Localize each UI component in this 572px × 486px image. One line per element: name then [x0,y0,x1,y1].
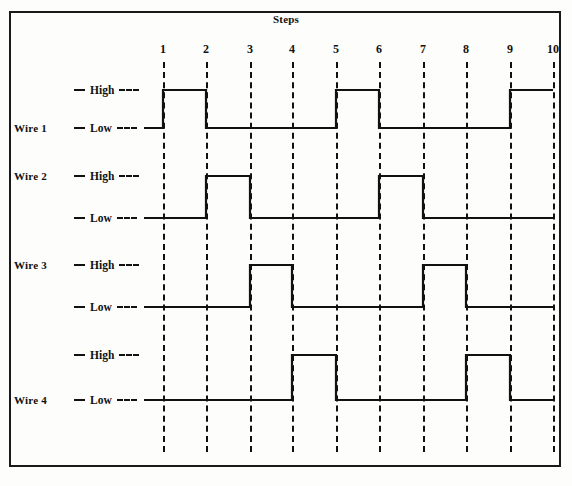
step-gridline-5 [336,62,338,452]
step-label-2: 2 [194,42,218,57]
step-gridline-1 [163,62,165,452]
level-label-wire-1-high: High [74,84,139,96]
step-gridline-9 [510,62,512,452]
step-label-9: 9 [498,42,522,57]
dash-right-icon [117,399,137,401]
step-label-3: 3 [238,42,262,57]
dash-right-icon [117,217,137,219]
wire-name-wire-2: Wire 2 [14,170,74,182]
step-gridline-2 [206,62,208,452]
wire-name-wire-1: Wire 1 [14,122,74,134]
dash-right-icon [119,264,139,266]
level-label-wire-3-high: High [74,259,139,271]
chart-title: Steps [0,13,572,25]
dash-left-icon [74,217,85,219]
wire-name-wire-4: Wire 4 [14,394,74,406]
level-label-wire-2-low: Low [74,212,137,224]
dash-left-icon [74,354,85,356]
level-label-wire-2-high: High [74,170,139,182]
step-gridline-8 [466,62,468,452]
step-label-1: 1 [151,42,175,57]
level-text: High [90,259,114,271]
step-gridline-4 [292,62,294,452]
step-label-5: 5 [324,42,348,57]
step-label-7: 7 [411,42,435,57]
level-text: Low [90,212,112,224]
step-gridline-6 [379,62,381,452]
dash-right-icon [119,89,139,91]
level-text: Low [90,301,112,313]
dash-right-icon [119,354,139,356]
step-label-6: 6 [367,42,391,57]
step-gridline-10 [553,62,555,452]
step-gridline-7 [423,62,425,452]
level-text: Low [90,122,112,134]
figure-page: Steps 12345678910 Wire 1HighLowWire 2Hig… [0,0,572,486]
step-label-4: 4 [280,42,304,57]
level-text: High [90,84,114,96]
level-label-wire-4-high: High [74,349,139,361]
level-label-wire-3-low: Low [74,301,137,313]
dash-left-icon [74,127,85,129]
step-gridline-3 [250,62,252,452]
dash-left-icon [74,399,85,401]
dash-right-icon [117,306,137,308]
dash-left-icon [74,89,85,91]
level-text: High [90,349,114,361]
dash-right-icon [117,127,137,129]
dash-left-icon [74,175,85,177]
dash-right-icon [119,175,139,177]
dash-left-icon [74,306,85,308]
dash-left-icon [74,264,85,266]
step-label-10: 10 [541,42,565,57]
wire-name-wire-3: Wire 3 [14,259,74,271]
level-text: Low [90,394,112,406]
level-text: High [90,170,114,182]
level-label-wire-1-low: Low [74,122,137,134]
level-label-wire-4-low: Low [74,394,137,406]
step-label-8: 8 [454,42,478,57]
